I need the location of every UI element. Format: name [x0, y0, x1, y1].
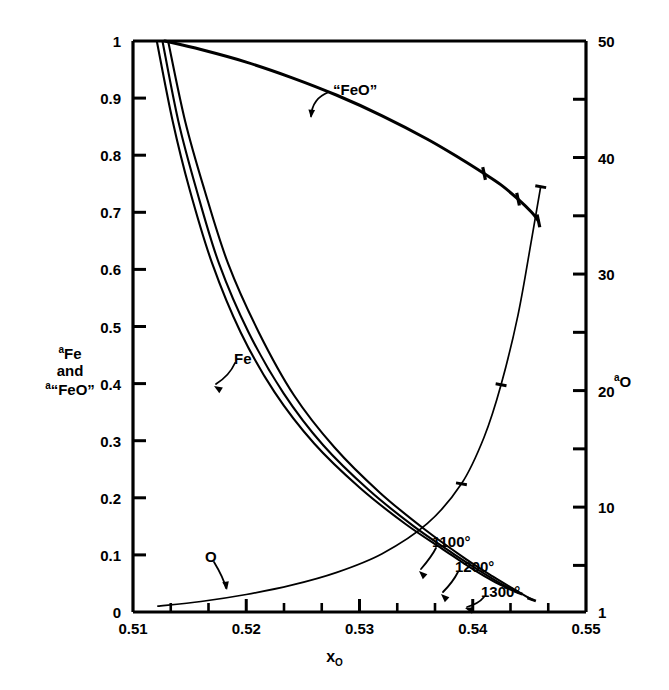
curve-annotation-label: O — [205, 549, 217, 564]
curve-annotation-label: Fe — [234, 351, 252, 366]
x-tick-label: 0.51 — [118, 621, 147, 636]
y-tick-label-left: 0.1 — [100, 547, 121, 562]
y-tick-label-right: 40 — [598, 150, 615, 165]
curve-end-stub — [537, 215, 540, 228]
y-axis-left-title-line1: aFe — [24, 344, 116, 362]
figure-root: aFe and a“FeO” aO xO 00.10.20.30.40.50.6… — [0, 0, 669, 690]
y-tick-label-left: 0.2 — [100, 490, 121, 505]
y-axis-right-title: aO — [614, 372, 631, 390]
series-curve — [157, 41, 509, 589]
annotation-arrowhead — [419, 571, 427, 579]
y-tick-label-left: 1 — [113, 34, 121, 49]
y-tick-label-right: 20 — [598, 383, 615, 398]
x-tick-label: 0.55 — [571, 621, 600, 636]
series-curve — [165, 41, 539, 221]
curve-end-stub — [527, 598, 535, 601]
annotation-arrowhead — [214, 386, 223, 393]
curve-end-stub — [483, 167, 486, 180]
annotation-arrowhead — [308, 109, 315, 118]
y-tick-label-right: 30 — [598, 267, 615, 282]
y-tick-label-right: 1 — [598, 605, 606, 620]
annotation-leader — [443, 572, 458, 592]
series-curve — [162, 41, 518, 593]
curve-annotation-label: 1200° — [455, 559, 494, 574]
x-tick-label: 0.53 — [345, 621, 374, 636]
series-curve — [168, 41, 532, 599]
y-tick-label-left: 0.8 — [100, 148, 121, 163]
curve-end-stub — [535, 186, 546, 188]
y-tick-label-left: 0.4 — [100, 376, 121, 391]
curve-end-stub — [496, 384, 507, 386]
x-axis-title: xO — [0, 648, 669, 669]
curve-end-stub — [517, 193, 520, 206]
y-tick-label-right: 10 — [598, 500, 615, 515]
y-tick-label-left: 0.7 — [100, 205, 121, 220]
x-tick-label: 0.52 — [232, 621, 261, 636]
y-tick-label-left: 0.6 — [100, 262, 121, 277]
y-tick-label-right: 50 — [598, 34, 615, 49]
y-tick-label-left: 0.9 — [100, 91, 121, 106]
annotation-leader — [216, 363, 235, 384]
curve-annotation-label: 1300° — [481, 584, 520, 599]
annotation-leader — [421, 548, 436, 569]
curve-annotation-label: “FeO” — [333, 82, 377, 97]
y-tick-label-left: 0.3 — [100, 433, 121, 448]
annotation-arrowhead — [441, 594, 449, 602]
curve-end-stub — [456, 483, 467, 485]
y-tick-label-left: 0 — [113, 605, 121, 620]
x-tick-label: 0.54 — [458, 621, 487, 636]
curve-annotation-label: 1100° — [432, 534, 471, 549]
y-tick-label-left: 0.5 — [100, 319, 121, 334]
